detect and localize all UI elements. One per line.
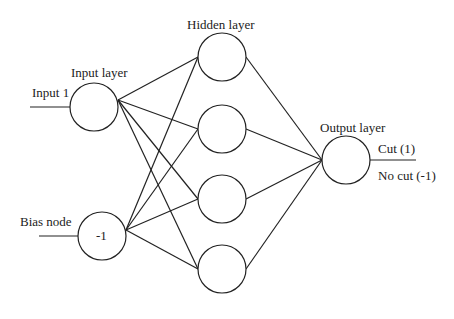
hidden-layer-label: Hidden layer [187,17,255,33]
bias-value: -1 [96,228,107,244]
output-layer-label: Output layer [320,120,385,136]
output-node [322,136,370,184]
cut-label: Cut (1) [378,141,415,157]
network-diagram [0,0,454,319]
bias-node-label: Bias node [20,214,72,230]
hidden-node-2 [198,105,246,153]
input-node [70,83,118,131]
hidden-node-3 [198,175,246,223]
hidden-node-1 [198,33,246,81]
no-cut-label: No cut (-1) [378,168,436,184]
input-layer-label: Input layer [71,65,128,81]
hidden-node-4 [198,245,246,293]
input-1-label: Input 1 [32,85,69,101]
